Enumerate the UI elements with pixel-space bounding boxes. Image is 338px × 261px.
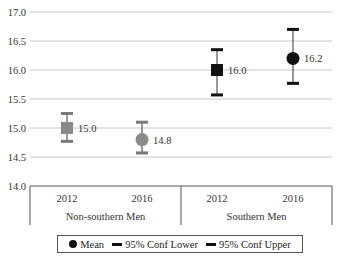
x-tick-label: 2012 bbox=[207, 193, 228, 204]
upper-cap-icon bbox=[287, 28, 299, 31]
x-group-label: Non-southern Men bbox=[66, 211, 146, 222]
y-tick-label: 15.0 bbox=[8, 123, 26, 134]
data-points: 15.014.816.016.2 bbox=[61, 28, 322, 155]
square-marker-icon bbox=[211, 64, 223, 76]
y-tick-label: 14.5 bbox=[8, 152, 26, 163]
y-tick-label: 16.5 bbox=[8, 36, 26, 47]
data-label: 15.0 bbox=[78, 123, 96, 134]
data-point: 14.8 bbox=[136, 121, 172, 155]
lower-cap-icon bbox=[211, 93, 223, 96]
circle-marker-icon bbox=[136, 133, 149, 146]
lower-cap-icon bbox=[61, 140, 73, 143]
dash-marker-icon bbox=[112, 243, 122, 246]
legend-label-upper: 95% Conf Upper bbox=[219, 239, 291, 250]
dash-marker-icon bbox=[206, 243, 216, 246]
square-marker-icon bbox=[61, 122, 73, 134]
data-point: 16.0 bbox=[211, 48, 246, 96]
legend-item-upper: 95% Conf Upper bbox=[206, 239, 291, 250]
y-tick-label: 14.0 bbox=[8, 181, 26, 192]
lower-cap-icon bbox=[136, 151, 148, 154]
data-label: 16.0 bbox=[228, 65, 246, 76]
y-tick-label: 16.0 bbox=[8, 65, 26, 76]
chart-legend: Mean 95% Conf Lower 95% Conf Upper bbox=[57, 235, 303, 253]
y-axis-ticks: 17.016.516.015.515.014.514.0 bbox=[8, 7, 26, 192]
x-axis: 20122016Non-southern Men20122016Southern… bbox=[30, 186, 332, 225]
legend-label-mean: Mean bbox=[80, 239, 104, 250]
legend-label-lower: 95% Conf Lower bbox=[125, 239, 198, 250]
circle-marker-icon bbox=[69, 240, 77, 248]
error-bar-chart: 17.016.516.015.515.014.514.0 20122016Non… bbox=[0, 0, 338, 261]
upper-cap-icon bbox=[136, 121, 148, 124]
lower-cap-icon bbox=[287, 82, 299, 85]
y-tick-label: 15.5 bbox=[8, 94, 26, 105]
data-point: 15.0 bbox=[61, 112, 96, 143]
y-tick-label: 17.0 bbox=[8, 7, 26, 18]
upper-cap-icon bbox=[61, 112, 73, 115]
data-point: 16.2 bbox=[287, 28, 323, 85]
data-label: 16.2 bbox=[304, 53, 322, 64]
upper-cap-icon bbox=[211, 48, 223, 51]
legend-item-lower: 95% Conf Lower bbox=[112, 239, 198, 250]
data-label: 14.8 bbox=[153, 135, 171, 146]
legend-item-mean: Mean bbox=[69, 239, 104, 250]
gridlines bbox=[30, 12, 332, 157]
x-tick-label: 2016 bbox=[283, 193, 304, 204]
x-tick-label: 2012 bbox=[57, 193, 78, 204]
x-group-label: Southern Men bbox=[227, 211, 288, 222]
x-tick-label: 2016 bbox=[132, 193, 153, 204]
circle-marker-icon bbox=[287, 52, 300, 65]
